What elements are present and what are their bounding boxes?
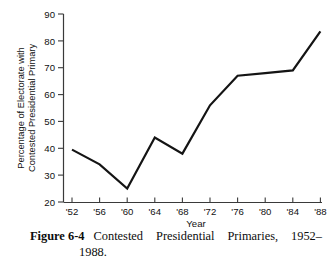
x-tick-label-72: '72 bbox=[204, 206, 217, 217]
y-tick-label-80: 80 bbox=[44, 36, 55, 47]
caption-figure-number: Figure 6-4 bbox=[30, 228, 85, 244]
y-tick-label-50: 50 bbox=[44, 116, 55, 127]
x-tick-label-68: '68 bbox=[176, 206, 189, 217]
x-tick-label-56: '56 bbox=[93, 206, 106, 217]
x-tick-label-64: '64 bbox=[149, 206, 162, 217]
y-tick-label-90: 90 bbox=[44, 9, 55, 20]
data-series-line bbox=[72, 31, 320, 188]
y-tick-label-30: 30 bbox=[44, 170, 55, 181]
y-axis-label-line2: Contested Presidential Primary bbox=[27, 44, 37, 172]
caption-text-line-1: Contested Presidential Primaries, 1952– bbox=[94, 228, 323, 244]
y-axis-label: Percentage of Electorate with Contested … bbox=[16, 44, 37, 172]
line-chart: Percentage of Electorate with Contested … bbox=[0, 0, 330, 228]
y-axis-label-line1: Percentage of Electorate with bbox=[16, 47, 26, 168]
y-tick-label-40: 40 bbox=[44, 143, 55, 154]
x-tick-label-52: '52 bbox=[66, 206, 79, 217]
x-tick-label-80: '80 bbox=[259, 206, 272, 217]
x-tick-label-84: '84 bbox=[287, 206, 300, 217]
caption-line-1: Figure 6-4 Contested Presidential Primar… bbox=[0, 228, 330, 244]
figure-container: Percentage of Electorate with Contested … bbox=[0, 0, 330, 264]
caption-text-line-2: 1988. bbox=[0, 244, 330, 260]
y-axis-ticks: 90 80 70 60 50 40 30 20 bbox=[44, 9, 63, 208]
chart-canvas: Percentage of Electorate with Contested … bbox=[0, 0, 330, 228]
figure-caption: Figure 6-4 Contested Presidential Primar… bbox=[0, 228, 330, 261]
x-axis-title: Year bbox=[186, 218, 206, 228]
x-tick-label-88: '88 bbox=[314, 206, 327, 217]
y-tick-label-60: 60 bbox=[44, 89, 55, 100]
x-tick-label-76: '76 bbox=[231, 206, 244, 217]
x-tick-label-60: '60 bbox=[121, 206, 134, 217]
y-tick-label-70: 70 bbox=[44, 62, 55, 73]
y-tick-label-20: 20 bbox=[44, 197, 55, 208]
x-axis-ticks: '52 '56 '60 '64 '68 '72 '76 '80 '84 '8 bbox=[66, 198, 327, 218]
